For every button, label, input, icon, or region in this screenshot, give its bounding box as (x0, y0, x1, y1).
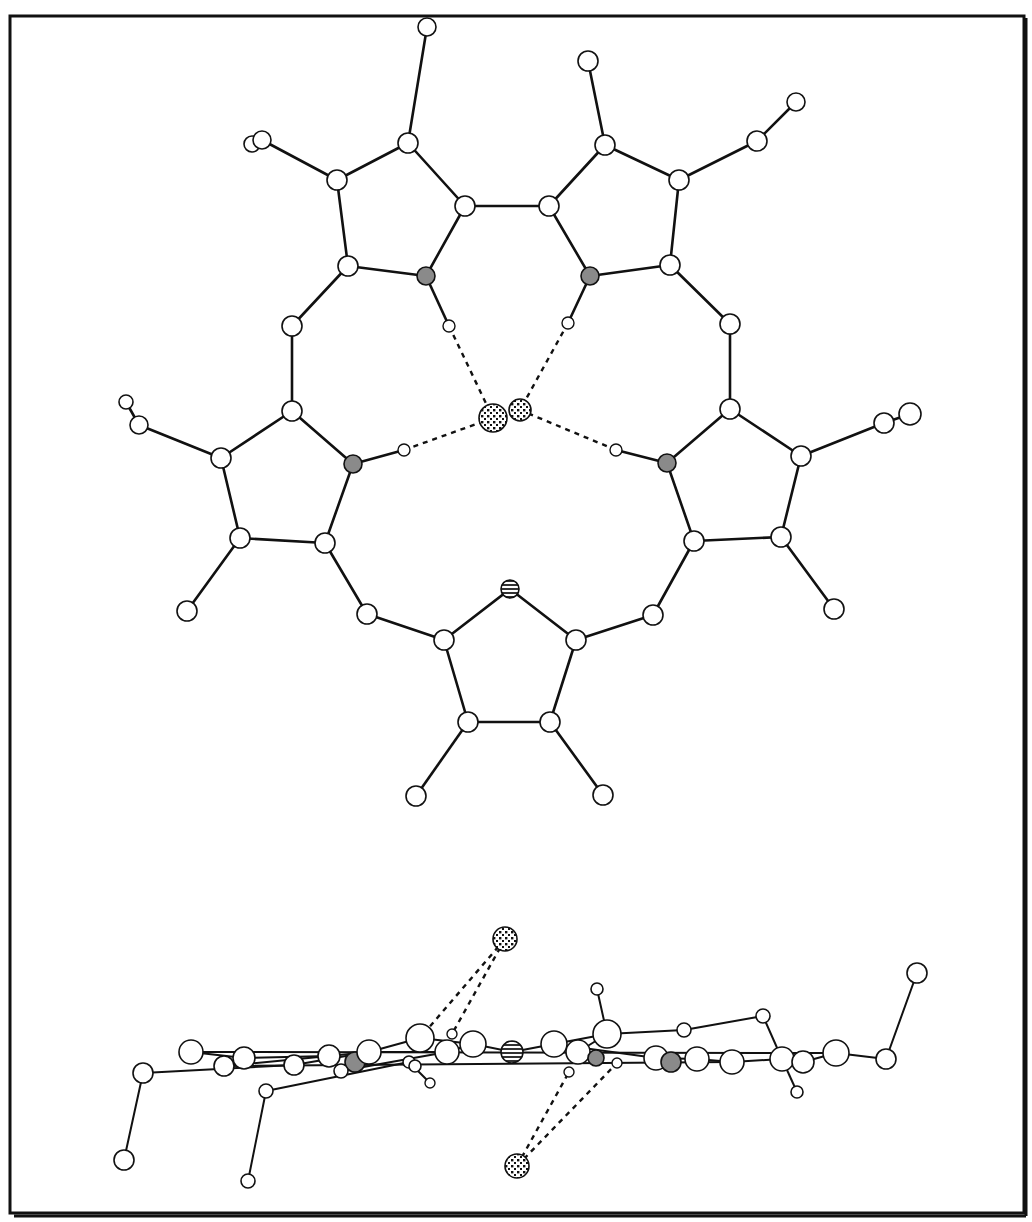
carbon-atom (418, 18, 436, 36)
carbon-atom (435, 1040, 459, 1064)
bond (670, 265, 730, 324)
carbon-atom (357, 604, 377, 624)
carbon-atom (578, 51, 598, 71)
bond (510, 589, 576, 640)
carbon-atom (899, 403, 921, 425)
atoms (114, 927, 927, 1188)
carbon-atom (460, 1031, 486, 1057)
figure-frame (10, 16, 1026, 1216)
bond (550, 722, 603, 795)
bond (292, 266, 348, 326)
bond (348, 266, 426, 276)
bond (325, 543, 367, 614)
carbon-atom (282, 401, 302, 421)
bond (667, 463, 694, 541)
carbon-atom (566, 1040, 590, 1064)
carbon-atom (747, 131, 767, 151)
carbon-atom (114, 1150, 134, 1170)
carbon-atom (876, 1049, 896, 1069)
anion-atom (493, 927, 517, 951)
carbon-atom (593, 785, 613, 805)
hydrogen-atom (562, 317, 574, 329)
bond (549, 206, 590, 276)
bond (667, 409, 730, 463)
carbon-atom (591, 983, 603, 995)
covalent-bonds (124, 973, 917, 1181)
bond (337, 180, 348, 266)
bond (886, 973, 917, 1059)
bond (408, 143, 465, 206)
carbon-atom (791, 446, 811, 466)
molecular-structure-figure (0, 0, 1032, 1222)
carbon-atom (823, 1040, 849, 1066)
carbon-atom (398, 133, 418, 153)
hydrogen-atom (443, 320, 455, 332)
carbon-atom (334, 1064, 348, 1078)
carbon-atom (720, 1050, 744, 1074)
carbon-atom (643, 605, 663, 625)
carbon-atom (406, 786, 426, 806)
carbon-atom (253, 131, 271, 149)
carbon-atom (119, 395, 133, 409)
carbon-atom (792, 1051, 814, 1073)
hydrogen-atom (425, 1078, 435, 1088)
bond (221, 411, 292, 458)
sulfur-atom (501, 580, 519, 598)
hydrogen-atom (447, 1029, 457, 1039)
bond (124, 1073, 143, 1160)
hydrogen-atom (398, 444, 410, 456)
carbon-atom (593, 1020, 621, 1048)
hydrogen-bond (520, 323, 568, 410)
carbon-atom (756, 1009, 770, 1023)
carbon-atom (660, 255, 680, 275)
atoms (119, 18, 921, 806)
nitrogen-atom (581, 267, 599, 285)
bond (605, 145, 679, 180)
carbon-atom (233, 1047, 255, 1069)
anion-atom (509, 399, 531, 421)
bond (408, 27, 427, 143)
carbon-atom (541, 1031, 567, 1057)
carbon-atom (791, 1086, 803, 1098)
hydrogen-atom (612, 1058, 622, 1068)
carbon-atom (720, 314, 740, 334)
carbon-atom (824, 599, 844, 619)
anion-atom (479, 404, 507, 432)
carbon-atom (406, 1024, 434, 1052)
carbon-atom (409, 1060, 421, 1072)
carbon-atom (539, 196, 559, 216)
anion-atom (505, 1154, 529, 1178)
nitrogen-atom (417, 267, 435, 285)
bond (653, 541, 694, 615)
bond (549, 145, 605, 206)
bond (221, 458, 240, 538)
carbon-atom (177, 601, 197, 621)
bond (139, 425, 221, 458)
hydrogen-bond (449, 326, 493, 418)
carbon-atom (284, 1055, 304, 1075)
carbon-atom (595, 135, 615, 155)
bond (444, 589, 510, 640)
hydrogen-atom (564, 1067, 574, 1077)
nitrogen-atom (588, 1050, 604, 1066)
carbon-atom (771, 527, 791, 547)
hydrogen-bonds (404, 323, 616, 450)
bond (325, 464, 353, 543)
bond (337, 143, 408, 180)
bond (781, 537, 834, 609)
carbon-atom (540, 712, 560, 732)
carbon-atom (907, 963, 927, 983)
bond (292, 411, 353, 464)
bond (444, 640, 468, 722)
bond (248, 1091, 266, 1181)
carbon-atom (566, 630, 586, 650)
carbon-atom (720, 399, 740, 419)
carbon-atom (677, 1023, 691, 1037)
bond (426, 206, 465, 276)
carbon-atom (282, 316, 302, 336)
hydrogen-bond (420, 939, 505, 1038)
carbon-atom (214, 1056, 234, 1076)
sulfur-atom (501, 1041, 523, 1063)
side-view-structure (114, 927, 927, 1188)
bond (679, 141, 757, 180)
